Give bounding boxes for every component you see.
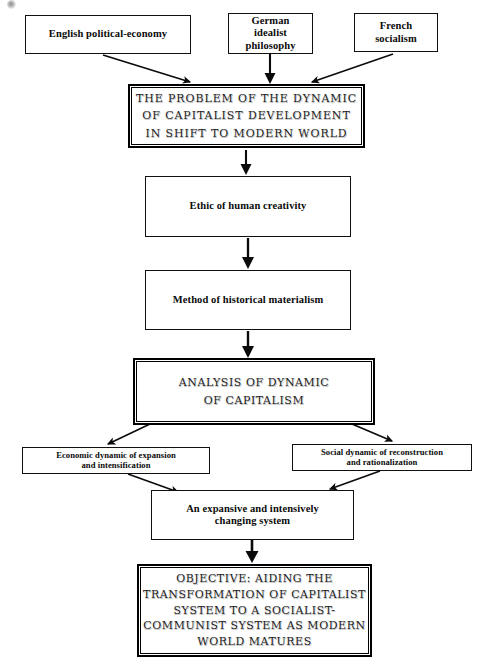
node-objective-label: OBJECTIVE: AIDING THE TRANSFORMATION OF …	[141, 571, 368, 651]
edge-social-to-system	[330, 471, 380, 489]
edge-german-arrowhead	[265, 73, 276, 84]
node-economic-dynamic-label: Economic dynamic of expansion and intens…	[23, 451, 209, 471]
edge-analysis-to-economic	[108, 424, 150, 444]
node-objective[interactable]: OBJECTIVE: AIDING THE TRANSFORMATION OF …	[140, 567, 369, 654]
node-german-idealist-philosophy-label: German idealist philosophy	[229, 15, 312, 51]
edge-problem-ethic-arrowhead	[241, 164, 252, 175]
node-method-of-historical-materialism[interactable]: Method of historical materialism	[145, 270, 351, 330]
node-french-socialism[interactable]: French socialism	[354, 13, 438, 52]
node-analysis-of-dynamic-label: ANALYSIS OF DYNAMIC OF CAPITALISM	[137, 374, 371, 408]
node-expansive-changing-system[interactable]: An expansive and intensively changing sy…	[151, 490, 354, 540]
node-economic-dynamic[interactable]: Economic dynamic of expansion and intens…	[22, 447, 210, 474]
node-analysis-of-dynamic[interactable]: ANALYSIS OF DYNAMIC OF CAPITALISM	[136, 361, 372, 422]
node-method-of-historical-materialism-label: Method of historical materialism	[146, 294, 350, 306]
node-french-socialism-label: French socialism	[355, 20, 437, 44]
node-german-idealist-philosophy[interactable]: German idealist philosophy	[228, 13, 313, 54]
scan-artifact	[7, 0, 16, 9]
node-ethic-of-human-creativity[interactable]: Ethic of human creativity	[145, 176, 351, 237]
node-problem-statement[interactable]: THE PROBLEM OF THE DYNAMIC OF CAPITALIST…	[131, 87, 362, 145]
edge-french-to-problem	[312, 54, 393, 82]
edge-method-analysis-arrowhead	[242, 346, 254, 358]
node-social-dynamic-label: Social dynamic of reconstruction and rat…	[293, 448, 471, 468]
edge-system-objective-arrowhead	[246, 551, 259, 563]
node-social-dynamic[interactable]: Social dynamic of reconstruction and rat…	[292, 444, 472, 471]
node-ethic-of-human-creativity-label: Ethic of human creativity	[146, 200, 350, 212]
edge-analysis-to-social	[352, 424, 392, 441]
edge-english-to-problem	[103, 55, 190, 82]
node-english-political-economy[interactable]: English political-economy	[25, 15, 191, 54]
node-expansive-changing-system-label: An expansive and intensively changing sy…	[152, 503, 353, 527]
node-problem-statement-label: THE PROBLEM OF THE DYNAMIC OF CAPITALIST…	[132, 90, 361, 141]
edge-ethic-method-arrowhead	[242, 257, 254, 269]
flowchart-canvas: English political-economy German idealis…	[0, 0, 485, 663]
node-english-political-economy-label: English political-economy	[26, 28, 190, 40]
